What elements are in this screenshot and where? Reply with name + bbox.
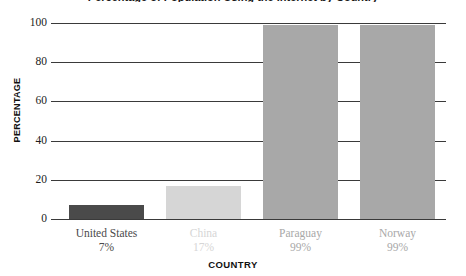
- category-value: 99%: [349, 241, 446, 255]
- category-name: Paraguay: [252, 227, 349, 241]
- bar-chart: Percentage of Population Using the Inter…: [0, 0, 466, 276]
- bar: [166, 186, 241, 219]
- y-axis-tick-label: 100: [0, 16, 47, 28]
- y-axis-tick-mark: [51, 62, 58, 63]
- chart-title: Percentage of Population Using the Inter…: [0, 0, 466, 2]
- y-axis-tick-mark: [51, 101, 58, 102]
- category-value: 99%: [252, 241, 349, 255]
- y-axis-tick-label: 20: [0, 173, 47, 185]
- y-axis-tick-mark: [51, 180, 58, 181]
- y-axis-tick-label: 0: [0, 212, 47, 224]
- bar: [263, 25, 338, 219]
- category-name: Norway: [349, 227, 446, 241]
- y-axis-tick-mark: [51, 219, 58, 220]
- x-axis-category-label: Norway99%: [349, 227, 446, 254]
- x-axis-category-label: China17%: [155, 227, 252, 254]
- category-value: 17%: [155, 241, 252, 255]
- y-axis-tick-mark: [51, 141, 58, 142]
- bar: [360, 25, 435, 219]
- x-axis-category-label: Paraguay99%: [252, 227, 349, 254]
- plot-area: [58, 23, 446, 219]
- category-value: 7%: [58, 241, 155, 255]
- x-axis-title: COUNTRY: [0, 259, 466, 270]
- category-name: United States: [58, 227, 155, 241]
- gridline: [58, 219, 446, 220]
- y-axis-tick-label: 60: [0, 94, 47, 106]
- category-name: China: [155, 227, 252, 241]
- y-axis-tick-label: 40: [0, 134, 47, 146]
- gridline: [58, 23, 446, 24]
- bar: [69, 205, 144, 219]
- y-axis-tick-mark: [51, 23, 58, 24]
- y-axis-tick-label: 80: [0, 55, 47, 67]
- x-axis-category-label: United States7%: [58, 227, 155, 254]
